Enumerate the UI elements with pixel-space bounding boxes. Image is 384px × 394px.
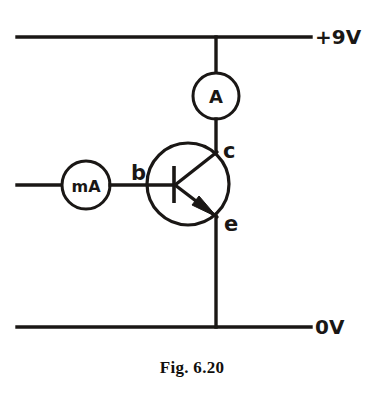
ammeter-label: A bbox=[209, 86, 223, 107]
figure-container: +9V 0V A mA bbox=[0, 0, 384, 394]
ground-rail-label: 0V bbox=[315, 315, 345, 339]
transistor-base-label: b bbox=[131, 161, 146, 185]
ammeter: A bbox=[193, 73, 239, 119]
milliammeter: mA bbox=[62, 161, 110, 209]
supply-rail-label: +9V bbox=[315, 25, 362, 49]
transistor-collector-label: c bbox=[223, 139, 235, 163]
transistor-emitter-label: e bbox=[224, 212, 238, 236]
milliammeter-label: mA bbox=[71, 177, 101, 196]
transistor-collector-lead bbox=[175, 152, 217, 185]
circuit-diagram: +9V 0V A mA bbox=[0, 0, 384, 394]
figure-caption: Fig. 6.20 bbox=[0, 358, 384, 378]
ground-rail-group: 0V bbox=[17, 315, 345, 339]
supply-rail-group: +9V bbox=[17, 25, 362, 49]
